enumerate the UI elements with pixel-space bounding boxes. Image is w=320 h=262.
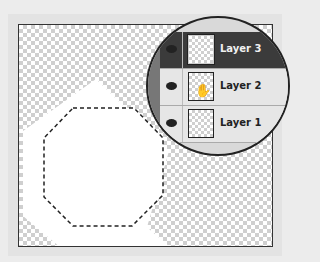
layer-row-1[interactable]: Layer 1	[160, 106, 290, 143]
eye-column	[160, 69, 183, 105]
layer-thumbnail	[188, 109, 214, 138]
octagon-marquee-selection	[44, 108, 163, 226]
eye-visibility-icon[interactable]	[166, 119, 177, 127]
grab-hand-icon: ✋	[195, 84, 211, 97]
eye-visibility-icon[interactable]	[166, 82, 177, 90]
layer-label: Layer 1	[220, 117, 261, 128]
eye-visibility-icon[interactable]	[166, 45, 177, 53]
layer-label: Layer 2	[220, 80, 261, 91]
eye-column	[160, 106, 183, 142]
layer-label: Layer 3	[220, 43, 261, 54]
panel-side-strip	[146, 16, 160, 156]
layer-row-2[interactable]: ✋ Layer 2	[160, 69, 290, 106]
layer-row-3[interactable]: Layer 3	[160, 32, 290, 69]
eye-column	[160, 32, 183, 68]
layer-thumbnail: ✋	[188, 72, 214, 101]
layer-thumbnail	[188, 35, 214, 64]
magnifier-layers-panel: Layer 3 ✋ Layer 2 Layer 1	[146, 16, 290, 156]
